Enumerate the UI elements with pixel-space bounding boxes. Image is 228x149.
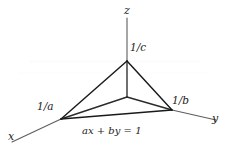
x-intercept-label: 1/a <box>37 101 53 112</box>
plane-edge-x-to-z <box>61 61 127 119</box>
y-axis-label: y <box>212 113 218 124</box>
plane-edge-z-to-y <box>127 61 172 110</box>
x-axis-outer-line <box>12 119 61 142</box>
plane-edge-x-to-y <box>61 110 172 119</box>
z-axis-label: z <box>124 5 130 16</box>
figure-canvas: z x y 1/c 1/a 1/b ax + by = 1 <box>0 0 228 149</box>
z-intercept-label: 1/c <box>130 42 146 53</box>
x-axis-label: x <box>8 131 14 142</box>
trace-equation-label: ax + by = 1 <box>82 126 142 136</box>
y-axis-outer-line <box>172 110 216 120</box>
y-intercept-label: 1/b <box>172 95 189 106</box>
